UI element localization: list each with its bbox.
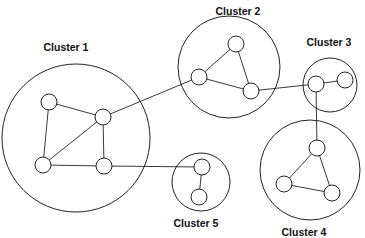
cluster-5-label: Cluster 5 [174,217,219,229]
cluster-4-boundary [260,120,360,220]
node-n3a [308,76,324,92]
node-n2b [191,69,207,85]
edge-n1b-n2b [103,77,199,117]
cluster-4-label: Cluster 4 [282,226,327,238]
edge-n1a-n1c [43,102,49,165]
node-n4a [309,140,325,156]
cluster-2-boundary [178,16,280,118]
cluster-3-label: Cluster 3 [307,36,352,48]
edge-n1c-n1d [43,165,104,166]
node-n5a [194,159,210,175]
node-n1d [96,158,112,174]
node-n4c [324,185,340,201]
cluster-1-boundary [2,64,150,212]
edge-n1b-n1c [43,117,103,165]
node-n2c [243,83,259,99]
edges-layer [43,44,345,197]
cluster-network-diagram: Cluster 1Cluster 2Cluster 3Cluster 4Clus… [0,0,365,238]
cluster-2-label: Cluster 2 [216,5,261,17]
node-n3b [337,72,353,88]
node-n1a [41,94,57,110]
cluster-1-label: Cluster 1 [44,41,89,53]
edge-n2c-n3a [251,84,316,91]
edge-n3a-n4a [316,84,317,148]
node-n4b [276,176,292,192]
node-n1c [35,157,51,173]
node-n5b [191,189,207,205]
node-n1b [95,109,111,125]
node-n2a [228,36,244,52]
edge-n1d-n5a [104,166,202,167]
